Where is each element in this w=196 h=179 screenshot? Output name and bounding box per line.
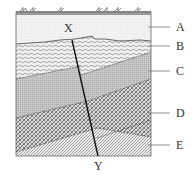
grass-icon [20, 7, 141, 11]
layer-label-e: E [176, 138, 183, 152]
fault-label-x: X [64, 21, 73, 35]
layer-label-a: A [176, 20, 185, 34]
layer-label-b: B [176, 39, 184, 53]
layer-label-c: C [176, 64, 184, 78]
layer-label-d: D [176, 106, 185, 120]
cross-section-diagram: X Y A B C D E [0, 0, 196, 179]
fault-label-y: Y [94, 159, 103, 173]
